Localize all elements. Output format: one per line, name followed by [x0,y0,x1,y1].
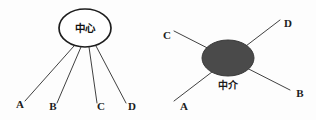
broker-hub-label: 中介 [218,79,239,91]
broker-endpoint-label-a: A [180,100,188,112]
broker-endpoint-label-d: D [284,17,292,29]
broker-hub-ellipse [202,40,254,76]
broker-endpoint-label-b: B [296,87,304,99]
network-diagram-figure: 中心 A B C D 中介 C D A B [0,0,316,120]
center-hub-label: 中心 [75,22,96,34]
figure-background [0,0,316,120]
center-endpoint-label-b: B [49,100,57,112]
figure-root: 中心 A B C D 中介 C D A B [0,0,316,120]
center-endpoint-label-c: C [97,100,105,112]
broker-endpoint-label-c: C [163,29,171,41]
center-endpoint-label-d: D [128,100,136,112]
center-endpoint-label-a: A [16,98,24,110]
